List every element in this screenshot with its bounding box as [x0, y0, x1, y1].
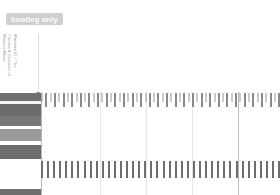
tick-mark[interactable]: [71, 161, 73, 178]
tick-mark[interactable]: [157, 93, 159, 107]
timeline-ruler-top[interactable]: [41, 93, 280, 115]
tick-mark[interactable]: [163, 161, 165, 178]
tick-mark[interactable]: [150, 161, 152, 178]
tick-mark[interactable]: [108, 161, 110, 178]
tick-mark[interactable]: [77, 161, 79, 178]
tick-mark[interactable]: [132, 93, 134, 107]
tick-mark[interactable]: [136, 93, 138, 102]
tick-mark[interactable]: [187, 161, 189, 178]
tick-mark[interactable]: [67, 93, 69, 102]
tick-mark[interactable]: [226, 93, 228, 107]
tick-mark[interactable]: [102, 161, 104, 178]
tick-mark[interactable]: [96, 161, 98, 178]
tick-mark[interactable]: [123, 93, 125, 107]
tick-mark[interactable]: [149, 93, 151, 107]
tick-mark[interactable]: [120, 161, 122, 178]
tick-mark[interactable]: [106, 93, 108, 107]
tick-mark[interactable]: [126, 161, 128, 178]
tick-mark[interactable]: [223, 161, 225, 178]
tick-mark[interactable]: [175, 93, 177, 107]
tick-mark[interactable]: [278, 161, 280, 178]
tick-mark[interactable]: [114, 161, 116, 178]
tick-mark[interactable]: [53, 161, 55, 178]
tick-mark[interactable]: [239, 93, 241, 102]
tick-mark[interactable]: [274, 93, 276, 102]
tick-mark[interactable]: [110, 93, 112, 102]
tick-mark[interactable]: [140, 93, 142, 107]
tick-mark[interactable]: [229, 161, 231, 178]
tick-mark[interactable]: [119, 93, 121, 102]
tick-mark[interactable]: [231, 93, 233, 102]
tick-mark[interactable]: [252, 93, 254, 107]
tick-mark[interactable]: [181, 161, 183, 178]
tick-mark[interactable]: [205, 161, 207, 178]
tick-mark[interactable]: [162, 93, 164, 102]
tick-mark[interactable]: [209, 93, 211, 107]
tick-mark[interactable]: [47, 161, 49, 178]
tick-mark[interactable]: [101, 93, 103, 102]
tick-mark[interactable]: [169, 161, 171, 178]
tick-mark[interactable]: [80, 93, 82, 107]
tick-mark[interactable]: [179, 93, 181, 102]
tick-mark[interactable]: [192, 93, 194, 107]
tick-mark[interactable]: [63, 93, 65, 107]
tick-mark[interactable]: [254, 161, 256, 178]
tick-mark[interactable]: [217, 161, 219, 178]
tick-mark[interactable]: [235, 93, 237, 107]
tick-mark[interactable]: [278, 93, 280, 107]
tick-mark[interactable]: [58, 93, 60, 102]
tick-mark[interactable]: [211, 161, 213, 178]
tick-mark[interactable]: [236, 161, 238, 178]
swatch-10[interactable]: [0, 189, 41, 195]
tick-mark[interactable]: [218, 93, 220, 107]
tick-mark[interactable]: [248, 93, 250, 102]
swatch-4[interactable]: [0, 116, 41, 126]
tick-mark[interactable]: [183, 93, 185, 107]
tick-mark[interactable]: [132, 161, 134, 178]
tick-mark[interactable]: [145, 93, 147, 102]
tick-mark[interactable]: [114, 93, 116, 107]
swatch-3[interactable]: [0, 104, 41, 116]
tick-mark[interactable]: [156, 161, 158, 178]
tick-mark[interactable]: [201, 93, 203, 107]
tick-mark[interactable]: [90, 161, 92, 178]
swatch-9[interactable]: [0, 159, 41, 189]
swatch-6[interactable]: [0, 129, 41, 141]
tick-mark[interactable]: [261, 93, 263, 107]
tick-mark[interactable]: [93, 93, 95, 102]
tick-mark[interactable]: [144, 161, 146, 178]
swatch-1[interactable]: [0, 93, 41, 101]
tick-mark[interactable]: [260, 161, 262, 178]
tick-mark[interactable]: [76, 93, 78, 102]
tick-mark[interactable]: [222, 93, 224, 102]
tick-mark[interactable]: [266, 161, 268, 178]
tick-mark[interactable]: [196, 93, 198, 102]
tick-mark[interactable]: [54, 93, 56, 107]
tick-mark[interactable]: [138, 161, 140, 178]
tick-mark[interactable]: [248, 161, 250, 178]
tick-mark[interactable]: [65, 161, 67, 178]
tick-mark[interactable]: [214, 93, 216, 102]
tick-mark[interactable]: [153, 93, 155, 102]
tick-mark[interactable]: [41, 161, 43, 178]
tick-mark[interactable]: [257, 93, 259, 102]
tick-mark[interactable]: [97, 93, 99, 107]
swatch-8[interactable]: [0, 145, 41, 159]
tick-mark[interactable]: [45, 93, 47, 107]
tick-mark[interactable]: [244, 93, 246, 107]
tick-mark[interactable]: [272, 161, 274, 178]
tick-mark[interactable]: [71, 93, 73, 107]
tick-mark[interactable]: [175, 161, 177, 178]
tick-mark[interactable]: [265, 93, 267, 102]
tick-mark[interactable]: [270, 93, 272, 107]
tick-mark[interactable]: [41, 93, 43, 102]
tick-mark[interactable]: [84, 93, 86, 102]
tick-mark[interactable]: [199, 161, 201, 178]
tick-mark[interactable]: [127, 93, 129, 102]
tick-mark[interactable]: [193, 161, 195, 178]
tick-mark[interactable]: [59, 161, 61, 178]
timeline-ruler-bottom[interactable]: [41, 161, 280, 183]
tick-mark[interactable]: [166, 93, 168, 107]
tick-mark[interactable]: [170, 93, 172, 102]
tick-mark[interactable]: [242, 161, 244, 178]
